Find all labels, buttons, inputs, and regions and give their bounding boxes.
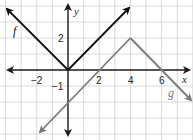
y-axis-label: y: [73, 5, 79, 17]
f-label: f: [13, 24, 18, 38]
y-tick-2: 2: [58, 33, 64, 44]
x-tick-2: 2: [96, 75, 102, 86]
x-tick-4: 4: [128, 75, 134, 86]
coordinate-plane: −2 2 4 6 2 −1 x y f g: [0, 0, 193, 140]
x-axis-label: x: [181, 73, 187, 85]
g-label: g: [168, 86, 174, 100]
y-tick-neg1: −1: [52, 81, 64, 92]
x-tick-neg2: −2: [31, 75, 43, 86]
x-tick-6: 6: [159, 75, 165, 86]
graph-figure: −2 2 4 6 2 −1 x y f g: [0, 0, 193, 140]
